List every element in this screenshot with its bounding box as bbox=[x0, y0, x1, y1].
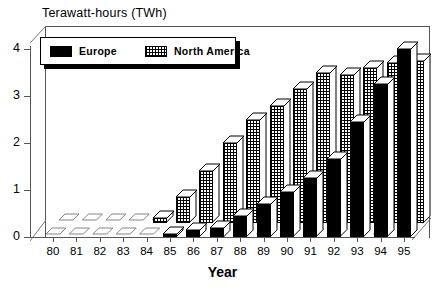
x-tick bbox=[264, 237, 265, 242]
x-tick-label: 83 bbox=[110, 245, 136, 257]
bar-front-face bbox=[153, 218, 167, 223]
bar-europe-89 bbox=[257, 204, 271, 237]
bar-front-face bbox=[350, 122, 364, 237]
bar-north-america-84 bbox=[153, 218, 167, 223]
bar-north-america-86 bbox=[199, 171, 213, 223]
y-tick bbox=[24, 49, 30, 50]
bar-side-face bbox=[410, 42, 419, 239]
x-tick bbox=[310, 237, 311, 242]
y-axis-title: Terawatt-hours (TWh) bbox=[42, 6, 167, 20]
bar-europe-88 bbox=[233, 216, 247, 237]
bar-front-face bbox=[374, 84, 388, 237]
x-tick-label: 81 bbox=[63, 245, 89, 257]
x-tick bbox=[357, 237, 358, 242]
bar-front-face bbox=[280, 192, 294, 237]
legend-swatch-north-america bbox=[145, 46, 167, 57]
bar-front-face bbox=[257, 204, 271, 237]
x-tick bbox=[123, 237, 124, 242]
bar-front-face bbox=[397, 49, 411, 237]
legend-swatch-europe bbox=[50, 46, 72, 57]
x-tick-label: 82 bbox=[87, 245, 113, 257]
y-tick bbox=[24, 237, 30, 238]
x-tick-label: 92 bbox=[321, 245, 347, 257]
x-tick-label: 93 bbox=[344, 245, 370, 257]
x-tick bbox=[217, 237, 218, 242]
x-axis-title: Year bbox=[0, 264, 445, 280]
legend-label-europe: Europe bbox=[79, 45, 117, 57]
y-tick-label: 0 bbox=[4, 229, 20, 243]
x-tick bbox=[147, 237, 148, 242]
bar-front-face bbox=[199, 171, 213, 223]
x-tick-label: 95 bbox=[391, 245, 417, 257]
y-tick bbox=[24, 190, 30, 191]
bar-europe-86 bbox=[186, 230, 200, 237]
y-axis-line bbox=[30, 46, 31, 238]
bar-front-face bbox=[210, 228, 224, 237]
x-tick-label: 87 bbox=[204, 245, 230, 257]
y-tick bbox=[24, 143, 30, 144]
x-tick bbox=[53, 237, 54, 242]
bar-front-face bbox=[327, 159, 341, 237]
bar-front-face bbox=[176, 197, 190, 223]
bar-europe-92 bbox=[327, 159, 341, 237]
bar-europe-90 bbox=[280, 192, 294, 237]
bar-side-face bbox=[212, 164, 221, 225]
x-tick bbox=[193, 237, 194, 242]
y-tick-label: 3 bbox=[4, 88, 20, 102]
x-tick bbox=[76, 237, 77, 242]
bar-front-face bbox=[303, 178, 317, 237]
bar-front-face bbox=[186, 230, 200, 237]
bar-north-america-85 bbox=[176, 197, 190, 223]
y-tick-label: 2 bbox=[4, 135, 20, 149]
bar-front-face bbox=[233, 216, 247, 237]
x-tick-label: 85 bbox=[157, 245, 183, 257]
bar-side-face bbox=[316, 171, 325, 239]
x-tick-label: 80 bbox=[40, 245, 66, 257]
x-tick bbox=[381, 237, 382, 242]
x-tick bbox=[404, 237, 405, 242]
x-tick bbox=[100, 237, 101, 242]
x-tick bbox=[240, 237, 241, 242]
bar-europe-91 bbox=[303, 178, 317, 237]
x-tick-label: 91 bbox=[297, 245, 323, 257]
x-tick-label: 94 bbox=[368, 245, 394, 257]
x-tick-label: 86 bbox=[180, 245, 206, 257]
x-tick-label: 90 bbox=[274, 245, 300, 257]
bar-side-face bbox=[423, 54, 432, 225]
x-tick bbox=[170, 237, 171, 242]
x-tick-label: 88 bbox=[227, 245, 253, 257]
bar-side-face bbox=[340, 152, 349, 239]
y-tick-label: 1 bbox=[4, 182, 20, 196]
bar-europe-95 bbox=[397, 49, 411, 237]
legend-label-north-america: North America bbox=[174, 45, 250, 57]
x-tick-label: 84 bbox=[134, 245, 160, 257]
x-tick-label: 89 bbox=[251, 245, 277, 257]
x-tick bbox=[334, 237, 335, 242]
y-tick bbox=[24, 96, 30, 97]
chart-legend: Europe North America bbox=[40, 37, 236, 65]
bar-europe-87 bbox=[210, 228, 224, 237]
bar-side-face bbox=[387, 77, 396, 239]
bar-europe-94 bbox=[374, 84, 388, 237]
bar-europe-93 bbox=[350, 122, 364, 237]
chart-container: Terawatt-hours (TWh) 01234 8081828384858… bbox=[0, 0, 445, 290]
x-tick bbox=[287, 237, 288, 242]
bar-side-face bbox=[363, 115, 372, 239]
y-tick-label: 4 bbox=[4, 41, 20, 55]
